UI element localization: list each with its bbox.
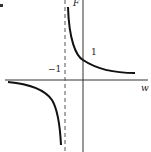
asymptote-label: −1 [48,65,61,74]
corner-mark [0,4,3,7]
curve-right-branch [68,7,135,73]
x-axis-label: w [141,84,149,93]
graph-canvas [0,0,151,152]
curve-left-branch [8,82,61,145]
y-axis-label: F [73,0,79,8]
intercept-label: 1 [91,48,97,57]
